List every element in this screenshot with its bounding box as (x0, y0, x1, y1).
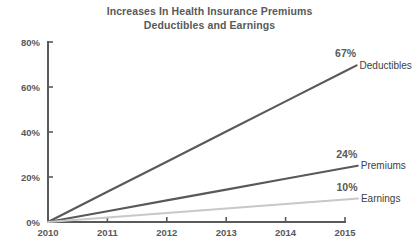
x-axis-tick-label: 2011 (97, 227, 118, 238)
x-axis-tick-label: 2012 (156, 227, 177, 238)
y-axis-tick-label: 20% (21, 172, 41, 183)
x-axis-tick-label: 2010 (37, 227, 58, 238)
series-value-label-premiums: 24% (336, 148, 358, 160)
x-axis-tick-labels: 201020112012201320142015 (37, 227, 356, 238)
series-line-earnings (48, 199, 358, 223)
chart-container: Increases In Health Insurance Premiums D… (0, 0, 419, 250)
y-axis-tick-labels: 0%20%40%60%80% (21, 37, 41, 228)
series-line-deductibles (48, 65, 357, 222)
y-axis-tick-label: 40% (21, 127, 41, 138)
y-axis-tick-label: 80% (21, 37, 41, 48)
line-chart-plot: 0%20%40%60%80% 201020112012201320142015 … (0, 0, 419, 250)
series-line-premiums (48, 166, 358, 222)
y-axis-tick-label: 60% (21, 82, 41, 93)
y-axis-tick-label: 0% (26, 217, 40, 228)
y-axis-group: 0%20%40%60%80% (21, 37, 53, 228)
x-axis-tick-label: 2013 (216, 227, 237, 238)
series-name-label-deductibles: Deductibles (360, 60, 412, 71)
x-axis-tick-label: 2015 (334, 227, 356, 238)
series-name-label-earnings: Earnings (361, 193, 400, 204)
x-axis-tick-label: 2014 (275, 227, 297, 238)
data-value-labels: 67%24%10% (335, 47, 358, 192)
series-value-label-earnings: 10% (336, 181, 358, 193)
series-name-label-premiums: Premiums (361, 160, 406, 171)
data-series-lines (48, 65, 358, 222)
series-name-labels: DeductiblesPremiumsEarnings (360, 60, 412, 204)
series-value-label-deductibles: 67% (335, 47, 357, 59)
